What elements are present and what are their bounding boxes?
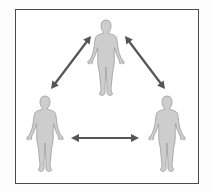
person-top-figure: [88, 20, 124, 95]
arrow-left-right: [71, 134, 139, 142]
person-left-figure: [27, 96, 63, 171]
diagram-canvas: [0, 0, 213, 192]
person-right-figure: [149, 96, 185, 171]
diagram-svg: [0, 0, 213, 192]
arrow-top-left: [51, 36, 91, 89]
arrow-top-right: [125, 36, 165, 89]
